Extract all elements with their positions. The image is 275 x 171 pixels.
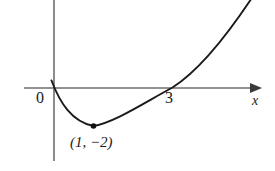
x-axis-label: x bbox=[252, 94, 258, 108]
vertex-point-marker bbox=[91, 123, 97, 129]
vertex-coordinate-label: (1, −2) bbox=[70, 135, 113, 150]
x-intercept-label: 3 bbox=[165, 90, 173, 106]
parabola-curve bbox=[52, 0, 251, 126]
origin-label: 0 bbox=[36, 90, 44, 106]
x-axis-arrowhead bbox=[250, 83, 262, 93]
graph-canvas bbox=[0, 0, 275, 171]
graph-figure: 0 3 x (1, −2) bbox=[0, 0, 275, 171]
